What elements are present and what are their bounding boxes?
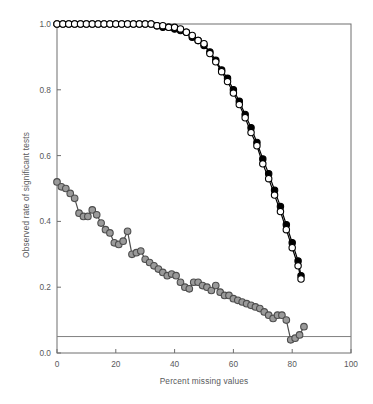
y-tick-label: 0.2 [11, 282, 51, 292]
axis-ticks [57, 24, 351, 353]
x-axis-title: Percent missing values [57, 376, 351, 386]
plot-frame [57, 24, 351, 353]
plot-canvas [0, 0, 373, 404]
y-axis-title: Observed rate of significant tests [21, 85, 31, 305]
x-tick-label: 20 [96, 359, 136, 369]
y-tick-label: 0.6 [11, 151, 51, 161]
x-tick-label: 80 [272, 359, 312, 369]
x-tick-label: 40 [155, 359, 195, 369]
y-tick-label: 0.4 [11, 216, 51, 226]
y-tick-label: 0.8 [11, 85, 51, 95]
x-tick-label: 60 [213, 359, 253, 369]
x-tick-label: 0 [37, 359, 77, 369]
y-tick-label: 1.0 [11, 19, 51, 29]
gray-circle-series [54, 179, 308, 344]
chart-figure: Observed rate of significant tests Perce… [0, 0, 373, 404]
open-and-filled-circle-series [54, 21, 304, 282]
x-tick-label: 100 [331, 359, 371, 369]
y-tick-label: 0.0 [11, 348, 51, 358]
